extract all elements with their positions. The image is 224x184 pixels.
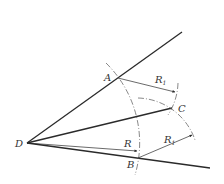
point-label-C: C (178, 103, 186, 114)
radius-label-R: R (123, 138, 132, 149)
lower-ray (27, 143, 210, 168)
point-label-A: A (103, 72, 111, 83)
point-label-D: D (14, 138, 23, 149)
bisector-ray (27, 108, 172, 143)
radius-label-R1-bottom: R1 (163, 134, 175, 146)
upper-ray (27, 32, 182, 143)
geometric-diagram: D A B C R R1 R1 (0, 0, 224, 184)
point-label-B: B (126, 159, 134, 170)
radius-label-R1-top: R1 (154, 74, 166, 86)
radius-R-arrow (27, 143, 137, 151)
